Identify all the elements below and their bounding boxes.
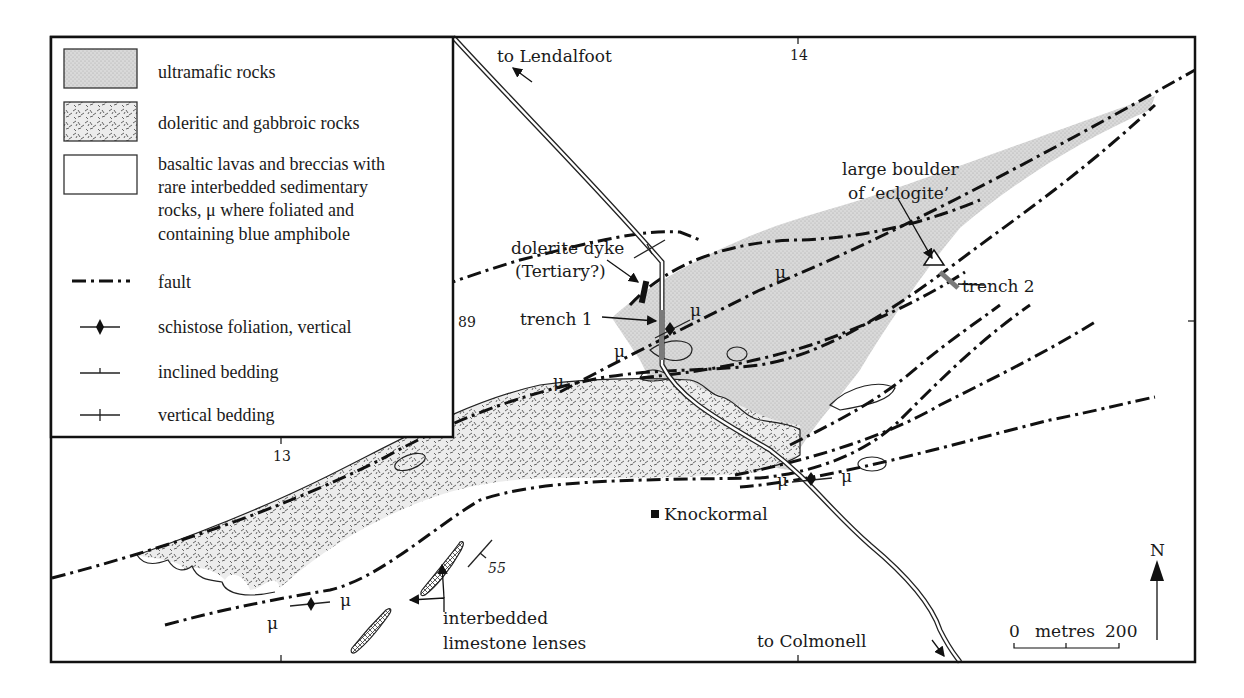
mu-label: μ	[340, 590, 351, 610]
label-dip-55: 55	[488, 560, 506, 576]
grid-label-89: 89	[458, 314, 476, 330]
scale-bar: 0 metres 200	[1009, 621, 1137, 648]
scale-end: 200	[1105, 621, 1137, 641]
legend-label-basaltic-3: rocks, μ where foliated and	[158, 200, 354, 220]
north-arrow: N	[1150, 540, 1165, 640]
legend-label-inclined: inclined bedding	[158, 362, 278, 382]
legend-label-basaltic-1: basaltic lavas and breccias with	[158, 154, 385, 174]
label-trench-1: trench 1	[520, 309, 593, 329]
legend-label-foliation: schistose foliation, vertical	[158, 317, 351, 337]
grid-label-13: 13	[273, 448, 291, 464]
north-label: N	[1150, 540, 1165, 560]
legend-label-basaltic-2: rare interbedded sedimentary	[158, 177, 368, 197]
legend-swatch-doleritic	[64, 102, 137, 141]
legend-label-doleritic: doleritic and gabbroic rocks	[158, 113, 359, 133]
label-boulder-2: of ‘eclogite’	[848, 183, 949, 203]
label-to-lendalfoot: to Lendalfoot	[497, 46, 612, 66]
mu-label: μ	[690, 300, 701, 320]
label-trench-2: trench 2	[962, 276, 1035, 296]
geological-map: to Lendalfoot dolerite dyke (Tertiary?) …	[0, 0, 1244, 698]
legend-label-ultramafic: ultramafic rocks	[158, 62, 275, 82]
label-knockormal: Knockormal	[664, 504, 768, 524]
knockormal-marker	[651, 510, 659, 518]
mu-label: μ	[614, 341, 625, 361]
mu-label: μ	[267, 613, 278, 633]
mu-label: μ	[777, 470, 788, 490]
label-dyke-2: (Tertiary?)	[515, 261, 606, 281]
mu-label: μ	[841, 466, 852, 486]
limestone-lens-2	[351, 609, 391, 654]
trench-2-marker	[940, 272, 958, 288]
mu-label: μ	[553, 371, 564, 391]
legend-swatch-basaltic	[64, 155, 137, 194]
legend-label-basaltic-4: containing blue amphibole	[158, 224, 350, 244]
legend-label-fault: fault	[158, 272, 191, 292]
label-dyke-1: dolerite dyke	[511, 238, 624, 258]
label-limestone-2: limestone lenses	[443, 633, 586, 653]
label-boulder-1: large boulder	[842, 159, 959, 179]
legend-swatch-ultramafic	[64, 49, 137, 88]
grid-label-14: 14	[790, 47, 808, 63]
scale-unit: metres	[1035, 621, 1095, 641]
legend: ultramafic rocks doleritic and gabbroic …	[51, 37, 453, 437]
scale-start: 0	[1009, 621, 1020, 641]
label-limestone-1: interbedded	[443, 608, 548, 628]
label-to-colmonell: to Colmonell	[757, 631, 866, 651]
legend-label-vertical: vertical bedding	[158, 405, 274, 425]
mu-label: μ	[775, 262, 786, 282]
